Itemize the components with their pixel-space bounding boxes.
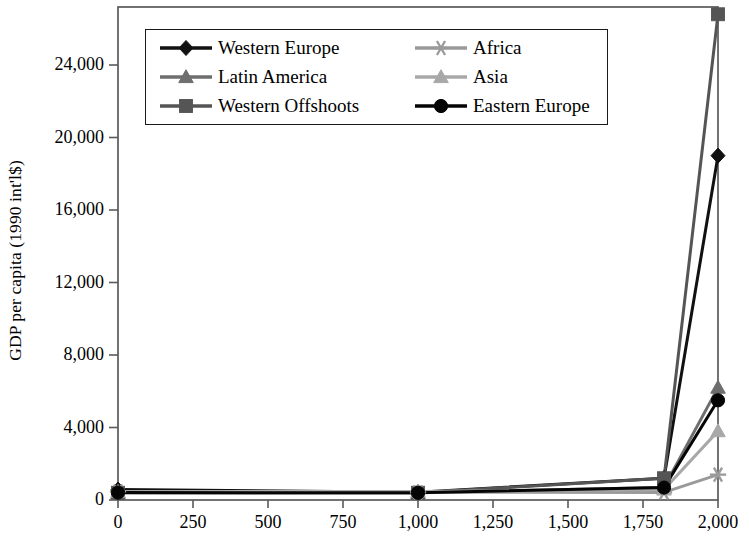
- data-point-5-0: [111, 486, 124, 499]
- legend-marker-square-icon: [158, 96, 214, 116]
- data-point-5-3: [711, 394, 724, 407]
- y-axis-title-text: GDP per capita (1990 int'l$): [5, 160, 26, 361]
- legend-marker-triangle-icon: [413, 67, 469, 87]
- legend-entry-0[interactable]: Western Europe: [146, 37, 401, 59]
- legend-entry-3[interactable]: Africa: [401, 37, 609, 59]
- chart-legend: Western EuropeAfricaLatin AmericaAsiaWes…: [145, 29, 608, 125]
- y-tick-label-5: 20,000: [4, 128, 104, 146]
- series-line-1: [118, 388, 718, 493]
- x-tick-label-6: 1,500: [528, 513, 608, 531]
- legend-entry-4[interactable]: Asia: [401, 66, 609, 88]
- legend-sample-marker-0: [179, 40, 193, 55]
- x-tick-label-1: 250: [153, 513, 233, 531]
- legend-label-0: Western Europe: [214, 37, 339, 59]
- data-point-0-3: [711, 148, 725, 163]
- y-tick-label-3: 12,000: [4, 273, 104, 291]
- x-tick-label-2: 500: [228, 513, 308, 531]
- x-tick-label-4: 1,000: [378, 513, 458, 531]
- legend-sample-marker-5: [434, 100, 447, 113]
- data-point-2-3: [712, 8, 725, 21]
- data-point-5-2: [657, 481, 670, 494]
- legend-marker-triangle-icon: [158, 67, 214, 87]
- legend-label-5: Eastern Europe: [469, 95, 590, 117]
- y-tick-label-0: 0: [4, 490, 104, 508]
- y-tick-label-6: 24,000: [4, 55, 104, 73]
- legend-label-2: Western Offshoots: [214, 95, 359, 117]
- x-tick-label-3: 750: [303, 513, 383, 531]
- y-axis-ticks: [109, 65, 118, 500]
- x-axis-ticks: [118, 500, 718, 508]
- legend-marker-diamond-icon: [158, 38, 214, 58]
- legend-marker-circle-icon: [413, 96, 469, 116]
- series-line-0: [118, 156, 718, 493]
- legend-entry-5[interactable]: Eastern Europe: [401, 95, 609, 117]
- legend-label-4: Asia: [469, 66, 508, 88]
- legend-entry-2[interactable]: Western Offshoots: [146, 95, 401, 117]
- legend-label-3: Africa: [469, 37, 522, 59]
- legend-label-1: Latin America: [214, 66, 327, 88]
- legend-sample-marker-3: [433, 41, 449, 55]
- x-tick-label-7: 1,750: [603, 513, 683, 531]
- data-point-1-3: [711, 380, 726, 393]
- chart-figure: GDP per capita (1990 int'l$) 04,0008,000…: [0, 0, 749, 548]
- y-tick-label-1: 4,000: [4, 418, 104, 436]
- y-tick-label-4: 16,000: [4, 200, 104, 218]
- data-point-4-3: [711, 424, 726, 437]
- data-point-5-1: [411, 486, 424, 499]
- legend-entry-1[interactable]: Latin America: [146, 66, 401, 88]
- y-tick-label-2: 8,000: [4, 345, 104, 363]
- legend-sample-marker-2: [180, 100, 193, 113]
- series-line-4: [118, 431, 718, 492]
- y-axis-title: GDP per capita (1990 int'l$): [2, 0, 28, 520]
- x-tick-label-0: 0: [78, 513, 158, 531]
- x-tick-label-8: 2,000: [678, 513, 749, 531]
- x-tick-label-5: 1,250: [453, 513, 533, 531]
- legend-marker-asterisk-icon: [413, 38, 469, 58]
